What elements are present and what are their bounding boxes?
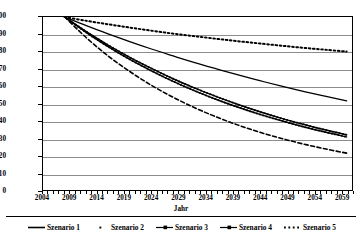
series-marker	[189, 88, 191, 90]
legend-item[interactable]: Szenario 4	[220, 223, 272, 232]
series-line	[65, 17, 347, 137]
series-marker	[337, 134, 339, 136]
series-marker	[232, 102, 234, 104]
series-marker	[210, 93, 212, 95]
series-marker	[295, 124, 297, 126]
x-axis-tick-mark	[326, 191, 327, 194]
x-axis-tick-mark	[228, 191, 229, 194]
x-axis-tick-mark	[260, 191, 261, 194]
x-axis-tick-mark	[184, 191, 185, 194]
series-marker	[251, 108, 253, 110]
series-marker	[181, 82, 183, 84]
x-axis-tick-mark	[288, 191, 289, 194]
series-marker	[318, 130, 320, 132]
series-marker	[296, 122, 298, 124]
series-marker	[257, 110, 259, 112]
x-axis-tick-mark	[124, 191, 125, 194]
x-axis-tick-mark	[309, 191, 310, 194]
series-marker	[126, 57, 128, 59]
x-axis-tick-mark	[91, 191, 92, 194]
x-axis-tick-mark	[271, 191, 272, 194]
series-marker	[275, 118, 277, 120]
y-axis-tick-label: 50	[0, 100, 6, 108]
series-marker	[256, 113, 258, 115]
x-axis-tick-mark	[217, 191, 218, 194]
series-marker	[329, 130, 331, 132]
series-marker	[123, 55, 125, 57]
series-marker	[117, 52, 119, 54]
series-marker	[202, 93, 204, 95]
series-marker	[269, 117, 271, 119]
series-marker	[130, 57, 132, 59]
series-marker	[292, 123, 294, 125]
series-marker	[332, 131, 334, 133]
legend-item[interactable]: Szenario 3	[156, 223, 208, 232]
series-marker	[89, 34, 91, 36]
series-marker	[221, 101, 223, 103]
series-marker	[194, 87, 196, 89]
legend-item-label: Szenario 3	[175, 223, 208, 232]
y-axis-tick-label: 70	[0, 65, 6, 73]
series-marker	[321, 130, 323, 132]
series-marker	[163, 74, 165, 76]
x-axis-tick-mark	[331, 191, 332, 194]
series-marker	[153, 71, 155, 73]
series-marker	[254, 109, 256, 111]
series-marker	[180, 84, 182, 86]
series-marker	[174, 81, 176, 83]
series-marker	[136, 60, 138, 62]
series-marker	[200, 90, 202, 92]
x-axis-tick-mark	[304, 191, 305, 194]
series-marker	[177, 83, 179, 85]
series-marker	[335, 132, 337, 134]
y-axis-tick-label: 80	[0, 47, 6, 55]
solid-line-icon	[28, 223, 45, 232]
series-marker	[166, 75, 168, 77]
series-marker	[224, 102, 226, 104]
series-marker	[80, 28, 82, 30]
series-marker	[260, 111, 262, 113]
x-axis-tick-mark	[195, 191, 196, 194]
x-axis-tick-mark	[337, 191, 338, 194]
x-axis-tick-mark	[238, 191, 239, 194]
series-marker	[243, 108, 245, 110]
dotted-line-icon	[284, 223, 301, 232]
series-marker	[151, 68, 153, 70]
series-marker	[311, 128, 313, 130]
x-axis-tick-mark	[255, 191, 256, 194]
x-axis-tick-mark	[135, 191, 136, 194]
legend-item[interactable]: Szenario 5	[284, 223, 336, 232]
series-marker	[120, 53, 122, 55]
y-axis-tick-label: 20	[0, 152, 6, 160]
legend-item[interactable]: Szenario 2	[92, 223, 144, 232]
x-axis-tick-mark	[277, 191, 278, 194]
series-marker	[322, 129, 324, 131]
series-marker	[303, 123, 305, 125]
series-marker	[344, 136, 346, 138]
series-marker	[148, 66, 150, 68]
plot-area	[42, 16, 353, 191]
x-axis-tick-mark	[42, 191, 43, 194]
series-marker	[339, 132, 341, 134]
series-marker	[75, 24, 77, 26]
series-marker	[326, 129, 328, 131]
dot-icon	[92, 223, 109, 232]
series-marker	[253, 112, 255, 114]
x-axis-tick-mark	[353, 191, 354, 194]
x-axis-title: Jahr	[0, 205, 362, 213]
series-marker	[213, 95, 215, 97]
legend-item[interactable]: Szenario 1	[28, 223, 80, 232]
series-marker	[106, 45, 108, 47]
x-axis-tick-mark	[244, 191, 245, 194]
x-axis-tick-label: 2059	[326, 194, 358, 202]
series-marker	[277, 116, 279, 118]
series-marker	[94, 37, 96, 39]
series-line	[65, 17, 347, 101]
series-marker	[241, 105, 243, 107]
series-marker	[262, 115, 264, 117]
series-marker	[308, 127, 310, 129]
x-axis-tick-mark	[80, 191, 81, 194]
series-marker	[240, 107, 242, 109]
series-marker	[159, 74, 161, 76]
series-marker	[188, 85, 190, 87]
